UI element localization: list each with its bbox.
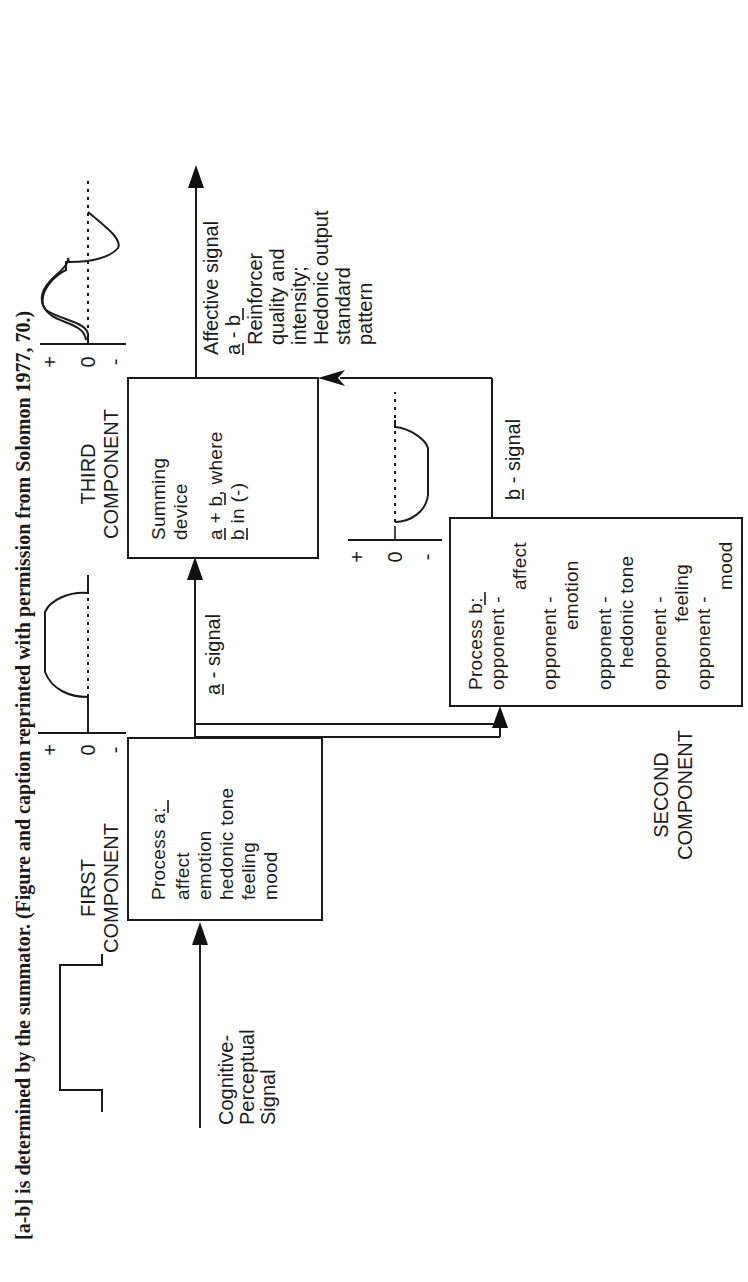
b-signal-arrow [318,370,492,518]
svg-text:emotion: emotion [194,830,215,900]
second-component-title: SECOND COMPONENT [650,730,696,860]
svg-text:standard: standard [332,267,354,345]
svg-text:opponent -: opponent - [693,596,714,690]
svg-text:feeling: feeling [671,564,692,622]
svg-text:Hedonic output: Hedonic output [310,210,332,345]
svg-text:THIRD: THIRD [77,443,99,504]
svg-text:+: + [346,551,368,563]
svg-text:Signal: Signal [257,1069,279,1125]
svg-text:+: + [39,744,61,756]
svg-text:0: 0 [77,356,99,367]
svg-text:a + b, where: a + b, where [205,431,226,540]
output-label: Affective signal a - b Reinforcer qualit… [200,210,376,355]
svg-text:emotion: emotion [561,560,582,630]
a-signal-waveform [45,575,88,722]
svg-text:0: 0 [384,551,406,562]
svg-text:opponent -: opponent - [649,596,670,690]
svg-text:SECOND: SECOND [650,752,672,838]
first-component-title: FIRST COMPONENT [77,823,122,953]
svg-text:COMPONENT: COMPONENT [674,730,696,860]
svg-text:COMPONENT: COMPONENT [100,823,122,953]
svg-text:COMPONENT: COMPONENT [100,409,122,539]
svg-text:-: - [416,554,438,561]
svg-text:opponent -: opponent - [539,596,560,690]
b-axis: + 0 - [346,526,442,563]
svg-text:Process a:: Process a: [148,807,169,900]
svg-text:pattern: pattern [354,283,376,345]
output-axis: + 0 - [39,344,126,368]
feed-to-second-arrow [195,706,508,737]
svg-text:Affective signal: Affective signal [200,221,222,355]
svg-text:Process b:: Process b: [465,597,486,690]
svg-text:quality and: quality and [266,248,288,345]
svg-text:feeling: feeling [238,842,259,900]
svg-text:-: - [104,747,126,754]
figure-caption: [a-b] is determined by the summator. (Fi… [12,311,35,1240]
svg-text:mood: mood [715,541,736,590]
input-label: Cognitive- Perceptual Signal [215,1029,279,1125]
svg-text:hedonic tone: hedonic tone [216,788,237,900]
first-axis: + 0 - [38,706,126,756]
svg-text:0: 0 [77,744,99,755]
svg-text:FIRST: FIRST [77,859,99,917]
svg-text:mood: mood [260,851,281,900]
svg-text:Reinforcer: Reinforcer [244,252,266,345]
output-waveform [42,176,119,344]
arrow-up-icon [192,922,208,945]
svg-text:affect: affect [172,852,193,900]
b-signal-label: b - signal [502,419,524,500]
b-waveform [395,392,428,522]
svg-text:+: + [39,356,61,368]
svg-text:Perceptual: Perceptual [236,1029,258,1125]
svg-text:device: device [170,483,191,540]
input-arrow [192,922,208,1128]
svg-text:b in (-): b in (-) [227,483,248,540]
arrow-up-icon [188,165,204,188]
svg-text:hedonic tone: hedonic tone [616,556,637,668]
arrow-up-icon [492,706,508,728]
svg-text:Cognitive-: Cognitive- [215,1035,237,1125]
a-signal-label: a - signal [202,614,224,695]
svg-text:intensity;: intensity; [288,266,310,345]
svg-text:a - b: a - b [222,315,244,355]
opponent-process-diagram: [a-b] is determined by the summator. (Fi… [0,0,748,1282]
arrow-up-icon [187,557,203,580]
svg-text:opponent -: opponent - [594,596,615,690]
svg-text:-: - [104,359,126,366]
third-component-title: THIRD COMPONENT [77,409,122,539]
svg-text:affect: affect [509,542,530,590]
svg-text:Summing: Summing [148,458,169,540]
input-step-waveform [60,954,102,1112]
svg-text:opponent -: opponent - [487,596,508,690]
